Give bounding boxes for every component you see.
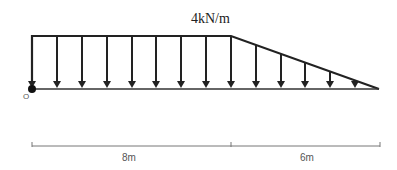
uniform-load-arrows xyxy=(28,36,235,88)
dimension-line xyxy=(32,142,380,147)
origin-label: O xyxy=(23,92,29,101)
load-diagram: O 4kN/m 8m 6m xyxy=(0,0,397,170)
load-magnitude-label: 4kN/m xyxy=(191,11,230,26)
dimension-label-segment-2: 6m xyxy=(300,152,314,163)
dimension-label-segment-1: 8m xyxy=(122,152,136,163)
triangular-load-arrows xyxy=(252,45,359,88)
